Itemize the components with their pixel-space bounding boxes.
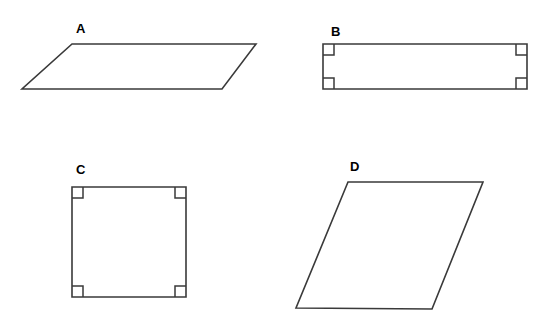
shape-a-parallelogram[interactable]	[22, 44, 256, 89]
shape-label-c: C	[76, 163, 85, 176]
shape-d-parallelogram[interactable]	[296, 182, 483, 309]
shape-c-square[interactable]	[72, 187, 186, 297]
shape-label-d: D	[350, 160, 359, 173]
shape-b-rectangle[interactable]	[323, 44, 527, 89]
figure-canvas: A B C D	[0, 0, 544, 318]
shape-group-c	[72, 187, 186, 297]
shape-label-a: A	[76, 22, 85, 35]
shape-group-d	[296, 182, 483, 309]
shape-group-b	[323, 44, 527, 89]
shape-group-a	[22, 44, 256, 89]
shape-label-b: B	[331, 25, 340, 38]
shapes-svg	[0, 0, 544, 318]
